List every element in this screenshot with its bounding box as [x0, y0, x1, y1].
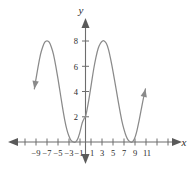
y-tick-label-6: 6	[74, 62, 78, 72]
x-tick-label-minus7: −7	[42, 148, 51, 158]
y-axis-group: y	[78, 4, 90, 164]
curve-group	[32, 41, 146, 143]
y-axis-top-arrowhead	[82, 18, 90, 28]
curve-right-arrowhead	[141, 89, 147, 98]
plot-svg: x y −9 −7	[0, 0, 194, 169]
y-tick-label-4: 4	[74, 87, 79, 97]
x-tick-label-11: 11	[143, 148, 151, 158]
x-tick-label-minus1: −1	[74, 148, 83, 158]
y-tick-label-2: 2	[74, 112, 78, 122]
function-curve	[34, 41, 145, 143]
y-tick-label-8: 8	[74, 36, 78, 46]
x-tick-label-7: 7	[122, 148, 126, 158]
curve-left-arrowhead	[32, 81, 38, 89]
x-tick-labels: −9 −7 −5 −3 −1 1 3 5 7 9 11	[31, 148, 151, 158]
y-tick-labels: 2 4 6 8	[74, 36, 79, 122]
y-axis-label: y	[78, 4, 84, 16]
x-tick-label-1: 1	[90, 148, 94, 158]
graph-figure: x y −9 −7	[0, 0, 194, 169]
x-tick-label-minus9: −9	[31, 148, 40, 158]
x-tick-label-9: 9	[133, 148, 137, 158]
x-tick-label-3: 3	[100, 148, 104, 158]
x-axis-label: x	[181, 136, 187, 148]
x-axis-group: x	[8, 136, 187, 148]
x-axis-left-arrowhead	[8, 138, 18, 146]
x-tick-label-minus5: −5	[53, 148, 62, 158]
x-tick-label-minus3: −3	[64, 148, 73, 158]
x-axis-right-arrowhead	[172, 138, 182, 146]
x-tick-label-5: 5	[111, 148, 115, 158]
